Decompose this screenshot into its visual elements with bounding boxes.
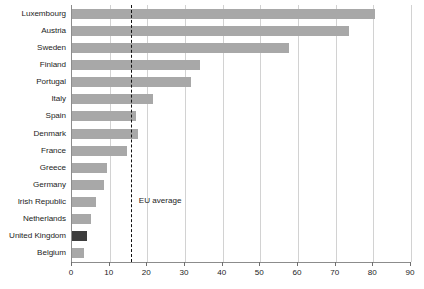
bar — [72, 26, 349, 36]
gridline-90 — [411, 5, 412, 262]
x-tick — [335, 262, 336, 266]
x-tick — [259, 262, 260, 266]
bar — [72, 129, 138, 139]
bar — [72, 214, 91, 224]
x-axis: 0102030405060708090 — [71, 262, 410, 288]
x-tick — [222, 262, 223, 266]
x-tick-label: 20 — [142, 268, 151, 278]
x-tick-label: 60 — [292, 268, 301, 278]
category-label: Austria — [0, 26, 66, 36]
x-tick-label: 50 — [255, 268, 264, 278]
bar — [72, 111, 136, 121]
x-tick-label: 0 — [69, 268, 74, 278]
category-label: Germany — [0, 180, 66, 190]
bar — [72, 43, 289, 53]
eu-average-line — [131, 5, 132, 262]
category-label: Irish Republic — [0, 197, 66, 207]
category-label: United Kingdom — [0, 231, 66, 241]
x-tick-label: 70 — [330, 268, 339, 278]
x-tick — [184, 262, 185, 266]
category-label: Luxembourg — [0, 9, 66, 19]
bar — [72, 163, 107, 173]
x-tick — [372, 262, 373, 266]
bar — [72, 60, 200, 70]
x-tick — [297, 262, 298, 266]
category-label: Finland — [0, 60, 66, 70]
gridline-60 — [298, 5, 299, 262]
bar — [72, 248, 84, 258]
x-tick — [109, 262, 110, 266]
x-tick-label: 40 — [217, 268, 226, 278]
bar — [72, 146, 127, 156]
x-tick-label: 90 — [405, 268, 414, 278]
bar — [72, 9, 375, 19]
x-tick-label: 10 — [104, 268, 113, 278]
category-label: Portugal — [0, 77, 66, 87]
category-label-column: LuxembourgAustriaSwedenFinlandPortugalIt… — [0, 5, 66, 262]
category-label: Belgium — [0, 248, 66, 258]
x-tick — [71, 262, 72, 266]
gridline-80 — [373, 5, 374, 262]
category-label: Greece — [0, 163, 66, 173]
x-tick — [410, 262, 411, 266]
bar — [72, 231, 87, 241]
category-label: France — [0, 146, 66, 156]
x-tick — [146, 262, 147, 266]
category-label: Italy — [0, 94, 66, 104]
x-tick-label: 80 — [368, 268, 377, 278]
category-label: Denmark — [0, 129, 66, 139]
bar-chart: LuxembourgAustriaSwedenFinlandPortugalIt… — [0, 0, 424, 289]
bar — [72, 180, 104, 190]
category-label: Sweden — [0, 43, 66, 53]
bar — [72, 197, 96, 207]
plot-area: EU average — [71, 5, 411, 263]
category-label: Spain — [0, 111, 66, 121]
bar — [72, 94, 153, 104]
gridline-70 — [336, 5, 337, 262]
x-tick-label: 30 — [179, 268, 188, 278]
category-label: Netherlands — [0, 214, 66, 224]
eu-average-label: EU average — [139, 196, 182, 206]
